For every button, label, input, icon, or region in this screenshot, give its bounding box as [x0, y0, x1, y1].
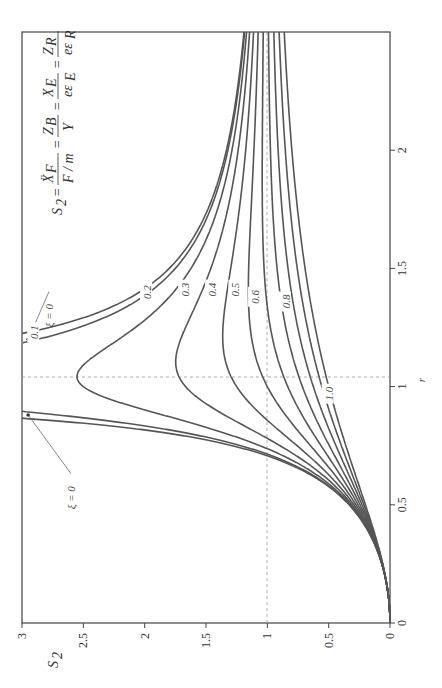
y-axis-label-main: S	[46, 661, 61, 668]
ticks-group: 00.511.5200.511.522.53	[15, 147, 409, 648]
eq-f1-den: F / m	[61, 153, 76, 184]
xi0-label: ξ = 0	[65, 486, 78, 510]
s2-tick-label: 1	[260, 633, 274, 639]
r-tick-label: 2	[395, 147, 409, 153]
eq-f2-num-sub: B	[44, 117, 59, 126]
curve-xi-1	[284, 32, 390, 623]
transmissibility-chart: 00.511.5200.511.522.53 ξ = 0ξ = 00.10.20…	[0, 0, 442, 688]
eq-f3-den: eε	[60, 85, 75, 97]
curve-label-xi-0_6: 0.6	[249, 289, 261, 303]
eq-sign-1: =	[50, 188, 65, 197]
eq-lhs: S	[50, 208, 65, 215]
r-tick-label: 0	[395, 620, 409, 626]
s2-tick-label: 0.5	[322, 633, 336, 648]
eq-f4-den: eε	[60, 43, 75, 55]
r-tick-label: 0.5	[395, 497, 409, 512]
eq-f3-den-sub: E	[63, 72, 78, 82]
eq-f4-num-sub: R	[44, 37, 59, 47]
curve-label-xi-0_8: 0.8	[280, 294, 292, 308]
curve-label-xi-0_3: 0.3	[179, 282, 191, 296]
eq-f1-num-sub: F	[44, 164, 59, 174]
eq-f4-den-sub: R	[63, 30, 78, 40]
eq-f2-den: Y	[61, 121, 76, 131]
r-tick-label: 1.5	[395, 261, 409, 276]
curve-label-xi-0_1: 0.1	[28, 325, 40, 339]
s2-tick-label: 3	[15, 633, 29, 639]
xi0-label: ξ = 0	[43, 304, 56, 328]
eq-lhs-sub: 2	[54, 199, 69, 206]
curve-xi-0_4	[223, 32, 390, 623]
curves-group	[22, 32, 390, 623]
equation: S 2 = Ẍ F F / m = Z B Y = X E eε E = Z R…	[40, 30, 78, 215]
eq-sign-4: =	[50, 60, 65, 69]
curve-label-xi-1_0: 1.0	[323, 386, 335, 400]
xi0-arrow-line	[28, 415, 71, 474]
eq-f2-num: Z	[41, 127, 56, 135]
curve-label-xi-0_4: 0.4	[206, 282, 218, 296]
y-axis-label-sub: 2	[50, 652, 65, 659]
eq-f3-num-sub: E	[44, 78, 59, 88]
s2-tick-label: 2	[138, 633, 152, 639]
curve-xi-0-seg0	[22, 418, 390, 623]
s2-tick-label: 0	[383, 633, 397, 639]
curve-label-xi-0_5: 0.5	[229, 282, 241, 296]
curve-label-xi-0_2: 0.2	[141, 285, 153, 299]
eq-f3-num: X	[41, 88, 56, 98]
curve-labels-group: ξ = 0ξ = 00.10.20.30.40.50.60.81.0	[26, 280, 334, 510]
x-axis-label: r	[415, 377, 427, 382]
eq-f1-num: Ẍ	[40, 174, 56, 184]
eq-f4-num: Z	[41, 47, 56, 55]
y-axis-label: S 2	[46, 652, 65, 668]
r-tick-label: 1	[395, 384, 409, 390]
s2-tick-label: 1.5	[199, 633, 213, 648]
s2-tick-label: 2.5	[76, 633, 90, 648]
eq-sign-2: =	[50, 140, 65, 149]
eq-sign-3: =	[50, 102, 65, 111]
xi0-arrow-head	[26, 413, 30, 417]
